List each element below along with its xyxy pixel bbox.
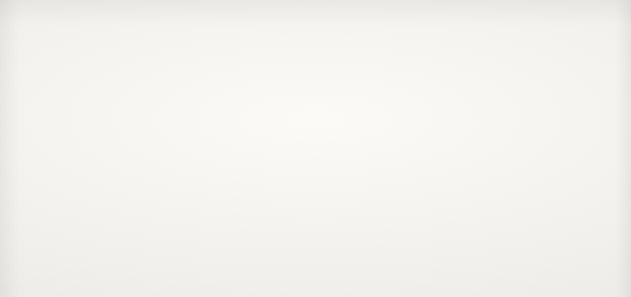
gridline-0 xyxy=(36,0,37,275)
bar-row: 1910 xyxy=(0,73,631,91)
bar-row: 1870 xyxy=(0,0,631,18)
x-tick-200000: 200,000 xyxy=(148,278,180,288)
year-label-2000: 2000 xyxy=(4,242,32,253)
x-tick-800000: 800,000 xyxy=(532,278,564,288)
bar-1920[interactable] xyxy=(36,94,445,108)
year-label-1910: 1910 xyxy=(4,77,32,88)
x-tick-400000: 400,000 xyxy=(276,278,308,288)
x-tick-700000: 700,000 xyxy=(468,278,500,288)
year-label-1940: 1940 xyxy=(4,132,32,143)
bar-row: 1920 xyxy=(0,92,631,110)
bar-row: 2010 xyxy=(0,257,631,275)
x-axis-line xyxy=(36,275,612,276)
gridline-800000 xyxy=(548,0,549,275)
bar-row: 1940 xyxy=(0,128,631,146)
gridline-300000 xyxy=(228,0,229,275)
chart-title-clipped: census 1870 - 2010 xyxy=(370,0,470,4)
bar-row: 1960 xyxy=(0,165,631,183)
x-tick-600000: 600,000 xyxy=(404,278,436,288)
x-tick-500000: 500,000 xyxy=(340,278,372,288)
bar-1930[interactable] xyxy=(36,112,478,126)
bar-2010[interactable] xyxy=(36,259,557,273)
bar-row: 1950 xyxy=(0,147,631,165)
gridline-500000 xyxy=(356,0,357,275)
year-label-1920: 1920 xyxy=(4,95,32,106)
gridline-600000 xyxy=(420,0,421,275)
x-tick-300000: 300,000 xyxy=(212,278,244,288)
bar-row: 1890 xyxy=(0,37,631,55)
bar-1880[interactable] xyxy=(36,21,95,35)
year-label-2010: 2010 xyxy=(4,260,32,271)
gridline-900000 xyxy=(612,0,613,275)
bar-row: 2000 xyxy=(0,238,631,256)
bar-1890[interactable] xyxy=(36,39,259,53)
year-label-1970: 1970 xyxy=(4,187,32,198)
x-tick-900000: 900,000 xyxy=(596,278,628,288)
year-label-1930: 1930 xyxy=(4,114,32,125)
bar-row: 1930 xyxy=(0,110,631,128)
bar-row: 1880 xyxy=(0,18,631,36)
bar-1960[interactable] xyxy=(36,167,472,181)
bar-2000[interactable] xyxy=(36,241,522,255)
bar-1950[interactable] xyxy=(36,149,453,163)
year-label-1880: 1880 xyxy=(4,22,32,33)
x-axis: 0100,000200,000300,000400,000500,000600,… xyxy=(0,275,631,297)
bar-1940[interactable] xyxy=(36,131,449,145)
plot-area: 1870188018901900191019201930194019501960… xyxy=(0,0,631,275)
bar-row: 1980 xyxy=(0,202,631,220)
x-tick-100000: 100,000 xyxy=(84,278,116,288)
year-label-1950: 1950 xyxy=(4,150,32,161)
x-tick-0: 0 xyxy=(34,278,39,288)
chart-page: census 1870 - 2010 Source: U.S. Census B… xyxy=(0,0,631,297)
year-label-1900: 1900 xyxy=(4,59,32,70)
bar-row: 1970 xyxy=(0,183,631,201)
bar-row: 1990 xyxy=(0,220,631,238)
gridline-100000 xyxy=(100,0,101,275)
gridline-200000 xyxy=(164,0,165,275)
year-label-1980: 1980 xyxy=(4,205,32,216)
gridline-700000 xyxy=(484,0,485,275)
bar-1980[interactable] xyxy=(36,204,478,218)
year-label-1990: 1990 xyxy=(4,224,32,235)
bar-row: 1900 xyxy=(0,55,631,73)
bar-1990[interactable] xyxy=(36,222,483,236)
year-label-1870: 1870 xyxy=(4,4,32,15)
source-note: Source: U.S. Census Bureau, 2010 census xyxy=(349,7,515,17)
year-label-1890: 1890 xyxy=(4,40,32,51)
gridline-400000 xyxy=(292,0,293,275)
year-label-1960: 1960 xyxy=(4,169,32,180)
